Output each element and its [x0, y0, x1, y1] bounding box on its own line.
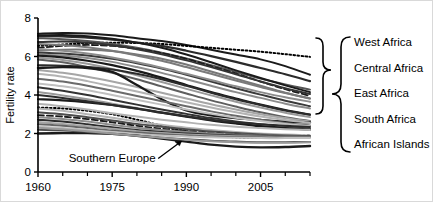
legend-item[interactable]: African Islands	[354, 138, 430, 150]
y-tick-label: 0	[25, 166, 31, 178]
legend-item-label: West Africa	[354, 36, 413, 48]
x-tick-label: 2005	[248, 181, 274, 193]
x-tick-label: 1960	[25, 181, 51, 193]
annotation-label: Southern Europe	[69, 152, 156, 164]
legend-item[interactable]: East Africa	[354, 87, 410, 99]
legend-item[interactable]: West Africa	[354, 36, 413, 48]
y-axis-title: Fertility rate	[4, 66, 16, 123]
legend-item[interactable]: South Africa	[354, 113, 417, 125]
legend-layer: West AfricaCentral AfricaEast AfricaSout…	[316, 36, 430, 152]
y-tick-label: 6	[25, 51, 31, 63]
y-tick-label: 4	[25, 89, 32, 101]
x-tick-label: 1990	[174, 181, 200, 193]
x-tick-label: 1975	[99, 181, 125, 193]
inner-group-bracket	[316, 38, 331, 114]
legend-item-label: South Africa	[354, 113, 417, 125]
chart-root: 024681960197519902005Fertility rateSouth…	[0, 0, 434, 203]
y-tick-label: 2	[25, 128, 31, 140]
legend-bracket	[332, 37, 350, 152]
fertility-rate-line-chart: 024681960197519902005Fertility rateSouth…	[0, 0, 434, 203]
series-layer	[38, 33, 310, 147]
legend-item-label: Central Africa	[354, 62, 424, 74]
legend-item-label: East Africa	[354, 87, 410, 99]
legend-item-label: African Islands	[354, 138, 430, 150]
y-tick-label: 8	[25, 12, 31, 24]
legend-item[interactable]: Central Africa	[354, 62, 424, 74]
